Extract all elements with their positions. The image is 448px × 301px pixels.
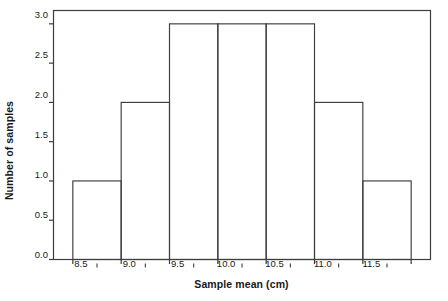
x-axis-title: Sample mean (cm) [53,278,430,290]
x-tick-label: 8.5 [61,259,101,269]
x-tick-label: 9.5 [158,259,198,269]
x-tick-label: 9.0 [109,259,149,269]
y-tick-label: 2.5 [22,50,48,60]
plot-frame [54,11,431,260]
y-tick-label: 1.5 [22,130,48,140]
y-axis-tick-labels: 0.0 0.5 1.0 1.5 2.0 2.5 3.0 [20,0,48,301]
x-axis-tick-labels: 8.5 9.0 9.5 10.0 10.5 11.0 11.5 [0,259,448,273]
y-tick-label: 3.0 [22,10,48,20]
y-tick-label: 0.5 [22,210,48,220]
histogram-figure: Number of samples 0.0 0.5 1.0 1.5 2.0 2.… [0,0,448,301]
y-tick-label: 1.0 [22,170,48,180]
x-tick-label: 10.0 [206,259,246,269]
x-tick-label: 10.5 [255,259,295,269]
y-tick-label: 2.0 [22,90,48,100]
x-tick-label: 11.0 [303,259,343,269]
x-tick-label: 11.5 [351,259,391,269]
plot-area [0,0,448,301]
